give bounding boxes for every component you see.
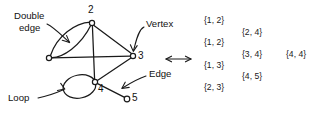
- edge-arrowhead: [122, 82, 129, 88]
- set-item: {1, 2}: [204, 15, 224, 25]
- edge-leader: [123, 76, 147, 88]
- set-item: {4, 5}: [242, 71, 262, 81]
- edge-v2-v4: [92, 26, 94, 80]
- vertex-label-2: 2: [88, 5, 94, 15]
- set-item: {2, 4}: [242, 27, 262, 37]
- set-item: {1, 2}: [204, 37, 224, 47]
- edge-loop-v4: [61, 72, 98, 101]
- loop-callout: Loop: [8, 92, 29, 104]
- loop-leader: [38, 90, 64, 99]
- vertex-5: [124, 96, 130, 102]
- edge-v2-v3: [94, 25, 132, 53]
- vertex-label-5: 5: [132, 93, 138, 103]
- set-item: {1, 3}: [204, 60, 224, 70]
- set-item: {2, 3}: [204, 82, 224, 92]
- edge-v3-v4: [97, 58, 130, 80]
- double-edge-callout-line1: Double: [14, 10, 44, 22]
- set-item: {4, 4}: [286, 49, 306, 59]
- edge-v1-v3: [52, 56, 131, 58]
- callout-leaders: [38, 24, 146, 98]
- vertex-1: [46, 55, 51, 60]
- equivalence-arrow: [166, 56, 191, 62]
- vertex-4: [92, 79, 97, 84]
- vertex-3: [130, 53, 135, 58]
- vertex-label-3: 3: [138, 51, 144, 61]
- vertex-label-4: 4: [98, 84, 104, 94]
- edge-callout: Edge: [149, 68, 171, 80]
- vertex-leader: [134, 27, 145, 51]
- double-edge-callout-line2: edge: [19, 22, 40, 34]
- vertex-2: [89, 20, 94, 25]
- multigraph-figure: 2 3 4 5 Double edge Vertex Edge Loop {1,…: [0, 0, 325, 119]
- vertex-callout: Vertex: [146, 18, 173, 30]
- set-item: {3, 4}: [242, 49, 262, 59]
